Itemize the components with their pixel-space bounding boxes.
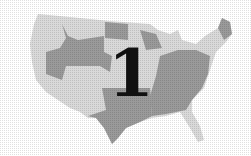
- map-number-label: 1: [108, 40, 154, 106]
